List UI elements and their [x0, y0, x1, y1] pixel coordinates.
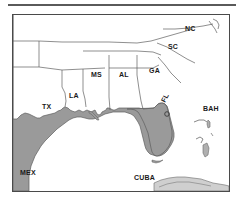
country-label-mex: MEX — [20, 169, 36, 176]
state-label-la: LA — [69, 92, 79, 99]
state-label-ms: MS — [91, 71, 102, 78]
country-label-bah: BAH — [203, 105, 219, 112]
figure-container: TX LA MS AL GA SC NC FL BAH MEX CUBA — [0, 0, 244, 203]
state-label-ga: GA — [149, 67, 160, 74]
state-label-tx: TX — [42, 103, 51, 110]
top-horizontal-rule — [8, 4, 236, 6]
state-label-al: AL — [119, 71, 129, 78]
state-label-nc: NC — [185, 25, 196, 32]
map-frame: TX LA MS AL GA SC NC FL BAH MEX CUBA — [12, 14, 230, 192]
country-label-cuba: CUBA — [134, 174, 155, 181]
state-label-sc: SC — [168, 43, 178, 50]
map-graphic: TX LA MS AL GA SC NC FL BAH MEX CUBA — [13, 15, 229, 191]
